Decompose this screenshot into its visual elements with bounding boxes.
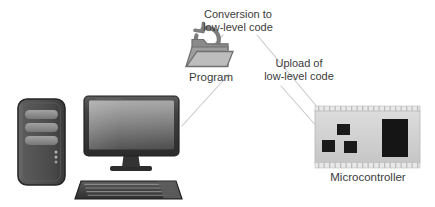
monitor-top-highlight <box>96 98 122 100</box>
chip-small-left <box>322 140 335 152</box>
tower-drive-bay <box>25 123 58 132</box>
computer-keyboard <box>75 181 182 199</box>
label-upload-of-low-level-code: Upload of low-level code <box>246 57 352 82</box>
chip-small-center <box>344 141 357 153</box>
computer-tower <box>18 99 65 185</box>
diagram-canvas: Conversion to low-level code Upload of l… <box>0 0 435 207</box>
monitor-screen-glare <box>89 101 174 150</box>
chip-main-processor <box>382 119 408 157</box>
tower-led-icon <box>55 161 58 164</box>
label-conversion-to-low-level-code: Conversion to low-level code <box>183 8 293 33</box>
tower-drive-bay <box>25 136 58 145</box>
label-microcontroller: Microcontroller <box>314 171 422 184</box>
tower-led-icon <box>55 151 58 154</box>
tower-drive-bay <box>25 110 58 119</box>
label-program: Program <box>189 71 237 84</box>
tower-led-icon <box>55 156 58 159</box>
chip-small-top <box>337 124 350 135</box>
microcontroller-board <box>315 106 420 168</box>
folder-icon <box>186 40 233 67</box>
computer-monitor <box>84 96 179 171</box>
pin-header-bottom <box>315 163 420 169</box>
